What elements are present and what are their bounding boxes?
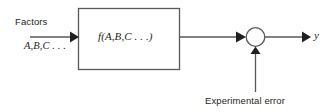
function-label: f(A,B,C . . .) xyxy=(98,31,153,42)
block-diagram: Factors A,B,C . . . f(A,B,C . . .) y Exp… xyxy=(0,0,329,112)
junction-to-output-arrow xyxy=(265,32,311,43)
experimental-error-label: Experimental error xyxy=(205,95,285,106)
process-to-junction-arrow xyxy=(180,32,246,43)
factors-label: Factors xyxy=(15,16,47,27)
factor-list-label: A,B,C . . . xyxy=(24,40,66,51)
summing-junction-circle xyxy=(246,28,265,47)
error-input-arrow xyxy=(251,47,261,93)
output-label: y xyxy=(314,30,319,41)
